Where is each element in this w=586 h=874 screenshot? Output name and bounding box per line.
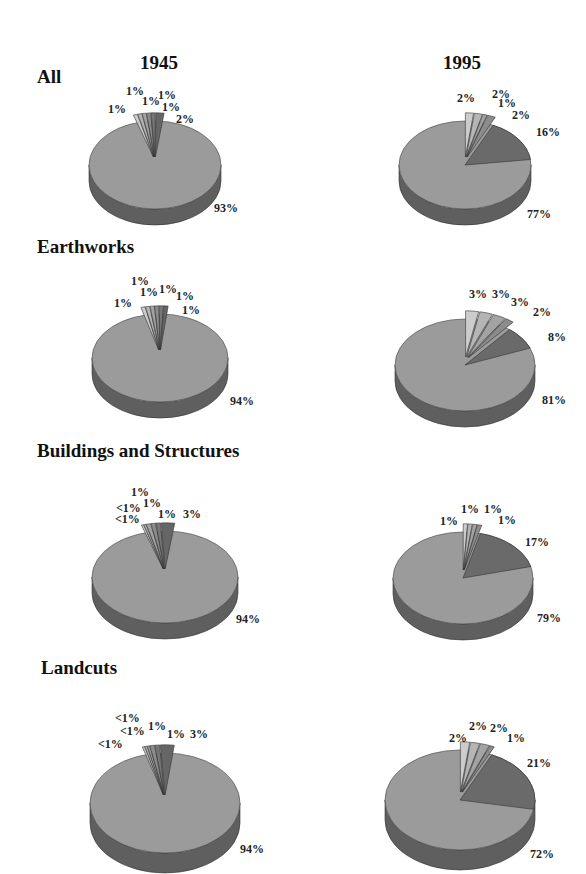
slice-label: 81%	[542, 393, 566, 407]
slice-label: 3%	[492, 287, 510, 301]
slice-label: <1%	[115, 711, 140, 725]
pie-charts: 93%1%1%1%1%1%2%77%2%2%1%2%16%94%1%1%1%1%…	[0, 0, 586, 874]
slice-label: 2%	[490, 721, 508, 735]
slice-label: 3%	[469, 287, 487, 301]
slice-label: 77%	[527, 207, 551, 221]
slice-label: 93%	[214, 201, 238, 215]
slice-label: 3%	[190, 727, 208, 741]
slice-label: 72%	[530, 847, 554, 861]
slice-label: 8%	[548, 330, 566, 344]
slice-label: 1%	[440, 514, 458, 528]
slice-label: 1%	[461, 502, 479, 516]
slice-label: 17%	[525, 535, 549, 549]
slice-label: 94%	[236, 612, 260, 626]
slice-label: 79%	[537, 611, 561, 625]
slice-label: 1%	[182, 303, 200, 317]
slice-label: 1%	[498, 513, 516, 527]
slice-label: 1%	[159, 282, 177, 296]
slice-label: 2%	[512, 108, 530, 122]
slice-label: 94%	[230, 394, 254, 408]
slice-label: 1%	[167, 727, 185, 741]
slice-label: 21%	[527, 756, 551, 770]
slice-label: 1%	[158, 507, 176, 521]
slice-label: 3%	[183, 507, 201, 521]
slice-label: 2%	[176, 112, 194, 126]
slice-label: 1%	[507, 731, 525, 745]
slice-label: <1%	[116, 501, 141, 515]
slice-label: 1%	[148, 719, 166, 733]
slice-label: 2%	[449, 731, 467, 745]
slice-label: 1%	[176, 289, 194, 303]
slice-label: 16%	[536, 125, 560, 139]
slice-label: 94%	[240, 842, 264, 856]
slice-label: 1%	[108, 102, 126, 116]
slice-label: <1%	[120, 724, 145, 738]
slice-label: 1%	[114, 296, 132, 310]
slice-label: 1%	[140, 285, 158, 299]
slice-label: 2%	[457, 91, 475, 105]
slice-label: 2%	[533, 305, 551, 319]
slice-label: 2%	[469, 719, 487, 733]
slice-label: 3%	[511, 295, 529, 309]
slice-label: <1%	[98, 737, 123, 751]
